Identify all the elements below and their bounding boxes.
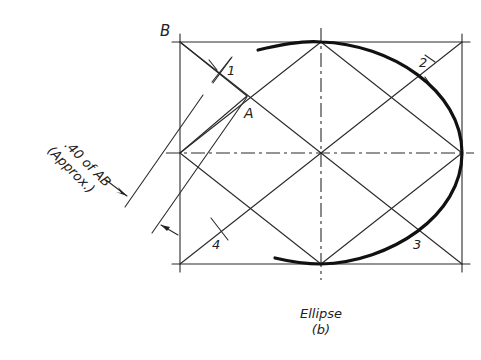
caption-sub: (b) (312, 322, 330, 337)
dimension-arrows (106, 180, 178, 235)
label-b: B (160, 22, 170, 40)
ellipse-construction-diagram: B A 1 2 3 4 .40 of AB (Approx.) Ellipse … (0, 0, 481, 360)
construction-lines (125, 57, 247, 233)
label-2: 2 (419, 55, 427, 70)
label-a: A (243, 105, 254, 121)
tick-marks (211, 55, 435, 240)
label-1: 1 (227, 63, 235, 78)
label-4: 4 (212, 237, 220, 252)
caption-title: Ellipse (300, 306, 342, 321)
dimension-annotation: .40 of AB (Approx.) (45, 132, 115, 202)
label-3: 3 (413, 237, 421, 252)
